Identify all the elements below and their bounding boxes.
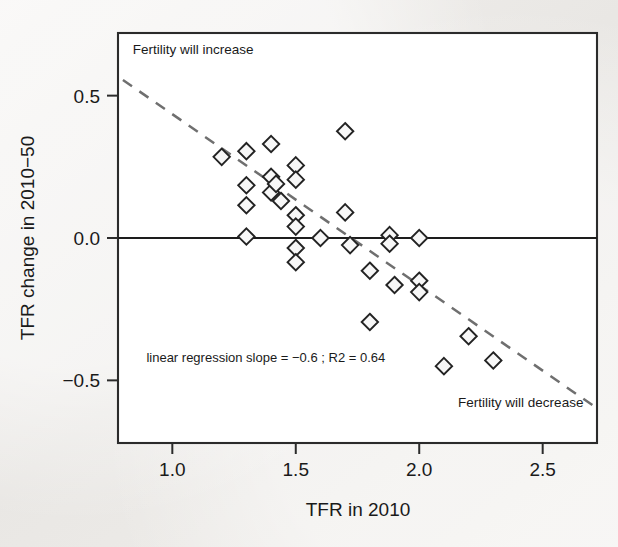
y-tick-label: 0.0 bbox=[74, 228, 100, 249]
y-axis-title: TFR change in 2010−50 bbox=[17, 136, 38, 340]
x-tick-label: 2.5 bbox=[529, 459, 555, 480]
scatter-chart: 1.01.52.02.5 0.50.0−0.5 Fertility will i… bbox=[0, 0, 618, 547]
x-tick-label: 1.5 bbox=[283, 459, 309, 480]
regression-note: linear regression slope = −0.6 ; R2 = 0.… bbox=[146, 350, 385, 365]
x-tick-label: 1.0 bbox=[159, 459, 185, 480]
x-tick-label: 2.0 bbox=[406, 459, 432, 480]
x-axis-title: TFR in 2010 bbox=[306, 499, 411, 520]
x-axis-ticks: 1.01.52.02.5 bbox=[159, 443, 556, 480]
figure-container: 1.01.52.02.5 0.50.0−0.5 Fertility will i… bbox=[0, 0, 618, 547]
y-tick-label: 0.5 bbox=[74, 86, 100, 107]
y-tick-label: −0.5 bbox=[62, 370, 100, 391]
y-axis-ticks: 0.50.0−0.5 bbox=[62, 86, 118, 392]
top-left-note: Fertility will increase bbox=[133, 42, 254, 57]
bottom-right-note: Fertility will decrease bbox=[458, 395, 583, 410]
